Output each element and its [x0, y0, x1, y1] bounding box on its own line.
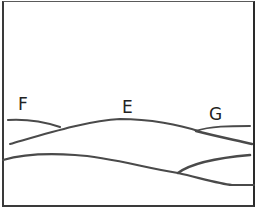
- label-f: F: [18, 96, 28, 113]
- label-e: E: [122, 99, 133, 116]
- layer-line-lower-lower-branch: [178, 173, 254, 185]
- layer-line-e-arch: [10, 119, 198, 144]
- layer-line-lower-upper-branch: [178, 155, 250, 173]
- layer-line-g-lower: [196, 131, 252, 144]
- layer-line-f: [8, 120, 60, 127]
- layer-line-g-upper: [196, 126, 250, 131]
- layer-line-lower: [3, 154, 178, 173]
- label-g: G: [209, 106, 222, 123]
